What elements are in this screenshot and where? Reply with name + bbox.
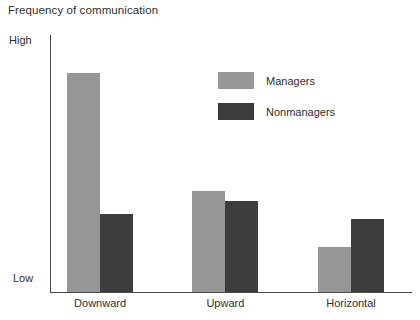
legend-label-managers: Managers [266, 75, 315, 87]
bar-downward-nonmanagers[interactable] [100, 214, 133, 292]
bar-horizontal-nonmanagers[interactable] [351, 219, 384, 292]
legend-swatch-managers [218, 72, 254, 89]
chart-title: Frequency of communication [8, 4, 158, 16]
bar-upward-nonmanagers[interactable] [225, 201, 258, 292]
y-axis-label-high: High [9, 34, 32, 46]
legend-swatch-nonmanagers [218, 103, 254, 120]
x-axis-label-upward: Upward [165, 297, 285, 309]
bar-group-downward [67, 40, 133, 292]
legend-entry-nonmanagers[interactable]: Nonmanagers [218, 103, 335, 120]
bar-upward-managers[interactable] [192, 191, 225, 292]
x-axis-line [50, 292, 412, 293]
bar-downward-managers[interactable] [67, 73, 100, 292]
legend-label-nonmanagers: Nonmanagers [266, 106, 335, 118]
chart-legend: ManagersNonmanagers [218, 72, 335, 134]
legend-entry-managers[interactable]: Managers [218, 72, 335, 89]
bar-chart-figure: Frequency of communication High Low Down… [0, 0, 420, 320]
bar-horizontal-managers[interactable] [318, 247, 351, 292]
x-axis-label-downward: Downward [40, 297, 160, 309]
y-axis-label-low: Low [13, 272, 33, 284]
x-axis-label-horizontal: Horizontal [291, 297, 411, 309]
